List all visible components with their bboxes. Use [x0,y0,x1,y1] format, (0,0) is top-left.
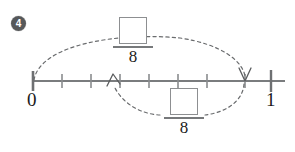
bottom-fraction: 8 [164,88,204,137]
bottom-dashed-arc-left [114,86,160,115]
bottom-fraction-numerator-box[interactable] [170,88,198,115]
bottom-fraction-denominator: 8 [164,119,204,137]
number-line-end-label: 1 [266,90,276,110]
top-fraction: 8 [113,17,153,66]
top-fraction-denominator: 8 [113,48,153,66]
number-line-start-label: 0 [27,90,37,110]
top-fraction-numerator-box[interactable] [119,17,147,44]
bottom-dashed-arc-right [205,84,244,115]
worksheet-problem: 4 8 8 [0,0,295,152]
